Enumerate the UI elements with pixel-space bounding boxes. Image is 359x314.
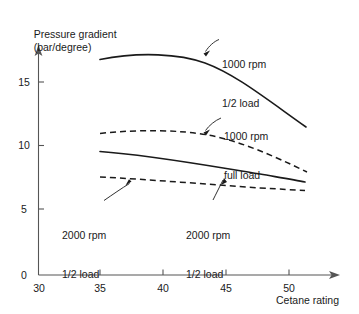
x-axis-title: Cetane rating (276, 294, 339, 307)
series-line-1000rpm-half-load (100, 55, 306, 127)
y-axis-title: Pressure gradient (bar/degree) (22, 15, 117, 67)
arrowhead-ann1 (204, 51, 211, 57)
y-tick-label-0: 0 (14, 269, 34, 282)
series-line-2000rpm-half-load-solid (100, 152, 305, 183)
annotation-1-line-1: 1000 rpm (222, 58, 266, 71)
annotation-3-line-2: 1/2 load (62, 268, 106, 281)
series-line-1000rpm-full-load (100, 131, 307, 172)
x-tick-label-50: 50 (278, 282, 300, 295)
chart-figure: Pressure gradient (bar/degree) 15 10 5 0… (0, 0, 359, 314)
annotation-1000rpm-full-load: 1000 rpm full load (224, 104, 268, 208)
y-tick-label-15: 15 (14, 76, 34, 89)
leader-line-ann4 (213, 180, 223, 200)
annotation-4-line-1: 2000 rpm (186, 229, 230, 242)
annotation-4-line-2: 1/2 load (186, 268, 230, 281)
x-tick-label-30: 30 (28, 282, 50, 295)
y-tick-label-5: 5 (14, 203, 34, 216)
annotation-2000rpm-half-load-right: 2000 rpm 1/2 load (186, 203, 230, 307)
leader-line-ann3 (104, 184, 130, 201)
y-tick-marks (39, 82, 45, 209)
leader-line-ann2 (206, 118, 222, 131)
leader-line-ann1 (206, 40, 220, 52)
y-axis-title-line-2: (bar/degree) (34, 41, 92, 53)
series-line-2000rpm-half-load-dashed (100, 177, 305, 191)
annotation-2000rpm-half-load-left: 2000 rpm 1/2 load (62, 203, 106, 307)
annotation-2-line-1: 1000 rpm (224, 130, 268, 143)
annotation-3-line-1: 2000 rpm (62, 229, 106, 242)
y-axis-title-line-1: Pressure gradient (34, 28, 117, 40)
annotation-arrowheads (126, 51, 228, 186)
y-tick-label-10: 10 (14, 139, 34, 152)
annotation-2-line-2: full load (224, 169, 268, 182)
x-tick-label-40: 40 (152, 282, 174, 295)
